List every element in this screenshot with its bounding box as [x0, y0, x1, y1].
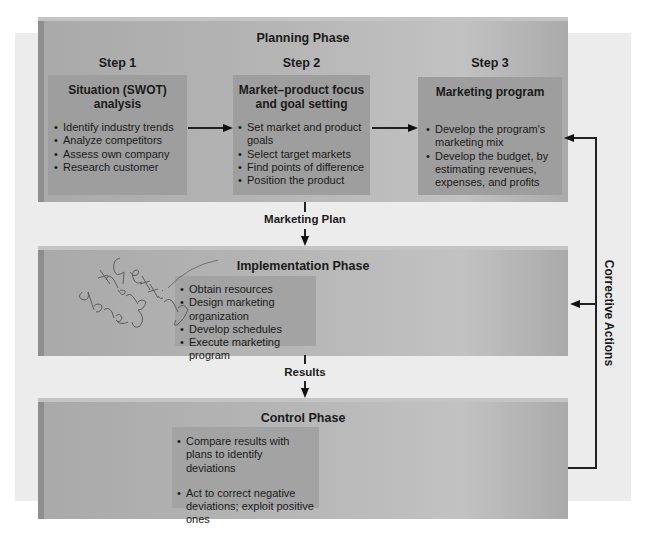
planning-phase-title: Planning Phase: [38, 31, 568, 45]
list-item: Set market and product goals: [238, 121, 365, 148]
control-list-box: Compare results with plans to identify d…: [172, 427, 319, 508]
list-item: Develop the program's marketing mix: [426, 123, 554, 150]
arrow-right-icon: [408, 124, 418, 132]
corrective-actions-label: Corrective Actions: [602, 248, 616, 378]
control-out-line: [568, 467, 596, 469]
step-3-title: Marketing program: [426, 85, 554, 99]
step-1-label: Step 1: [48, 56, 187, 70]
list-item: Select target markets: [238, 148, 365, 161]
list-item: Assess own company: [54, 148, 181, 161]
step-3-label: Step 3: [418, 56, 562, 70]
list-item: Develop the budget, by estimating revenu…: [426, 150, 554, 190]
implementation-down-line: [304, 355, 306, 364]
step1-to-step2-line: [188, 127, 224, 129]
control-phase-title: Control Phase: [38, 411, 568, 425]
arrow-left-icon: [564, 134, 574, 142]
marketing-plan-label: Marketing Plan: [240, 213, 370, 225]
step-3-list: Develop the program's marketing mix Deve…: [426, 123, 554, 189]
list-item: Act to correct negative deviations; expl…: [177, 487, 314, 527]
corrective-to-planning-line: [572, 137, 596, 139]
arrow-right-icon: [223, 124, 233, 132]
list-item: Compare results with plans to identify d…: [177, 435, 314, 475]
step-2-list: Set market and product goals Select targ…: [238, 121, 365, 187]
step-1-list: Identify industry trends Analyze competi…: [54, 121, 181, 174]
list-item: Research customer: [54, 161, 181, 174]
list-item: Identify industry trends: [54, 121, 181, 134]
planning-down-line: [304, 202, 306, 212]
corrective-to-implementation-line: [578, 303, 596, 305]
handwritten-note: [70, 250, 220, 355]
step-2-label: Step 2: [233, 56, 370, 70]
arrow-left-icon: [570, 300, 580, 308]
step-2-box: Market–product focus and goal setting Se…: [233, 75, 370, 195]
control-list: Compare results with plans to identify d…: [177, 435, 314, 527]
step2-to-step3-line: [372, 127, 409, 129]
arrow-down-icon: [301, 236, 309, 246]
results-label: Results: [254, 366, 356, 378]
step-2-title: Market–product focus and goal setting: [238, 83, 365, 111]
list-item: Position the product: [238, 174, 365, 187]
step-1-title: Situation (SWOT) analysis: [54, 83, 181, 111]
list-item: Find points of difference: [238, 161, 365, 174]
step-1-box: Situation (SWOT) analysis Identify indus…: [48, 75, 187, 195]
list-item: Analyze competitors: [54, 134, 181, 147]
arrow-down-icon: [301, 388, 309, 398]
step-3-box: Marketing program Develop the program's …: [418, 77, 562, 195]
